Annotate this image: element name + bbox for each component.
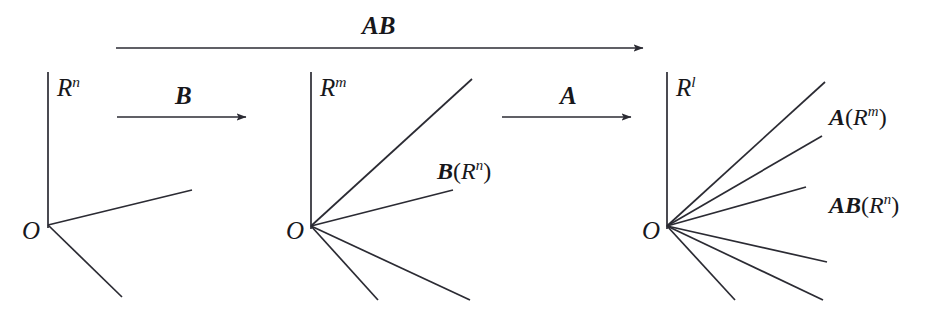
ray-rm-4 xyxy=(311,226,470,300)
panel-rm-geometry xyxy=(311,72,472,300)
ray-rn-1 xyxy=(48,190,192,225)
arrow-B-label: B xyxy=(175,83,192,108)
arrow-A-label: A xyxy=(560,83,577,108)
ray-rl-2 xyxy=(667,136,822,226)
space-label-rm: Rm xyxy=(320,74,347,100)
ray-rn-2 xyxy=(48,225,122,297)
arrow-AB-label: AB xyxy=(362,13,395,38)
image-label-b-rn: B(Rn) xyxy=(437,158,491,183)
ray-rl-4 xyxy=(667,226,827,262)
space-label-rl: Rl xyxy=(676,74,696,100)
panel-rl-geometry xyxy=(667,72,827,300)
panel-rn-geometry xyxy=(48,72,192,297)
ray-rm-2 xyxy=(311,190,453,226)
ray-rl-5 xyxy=(667,226,823,300)
space-label-rn: Rn xyxy=(57,74,80,100)
ray-rm-3 xyxy=(311,226,378,300)
origin-label-rm: O xyxy=(286,218,304,243)
origin-label-rl: O xyxy=(642,218,660,243)
image-label-ab-rn: AB(Rn) xyxy=(829,192,899,217)
linear-map-composition-diagram: AB B A Rn Rm Rl O O O B(Rn) A(Rm) AB(Rn) xyxy=(0,0,929,315)
image-label-a-rm: A(Rm) xyxy=(829,104,887,129)
origin-label-rn: O xyxy=(22,218,40,243)
ray-rl-6 xyxy=(667,226,735,300)
